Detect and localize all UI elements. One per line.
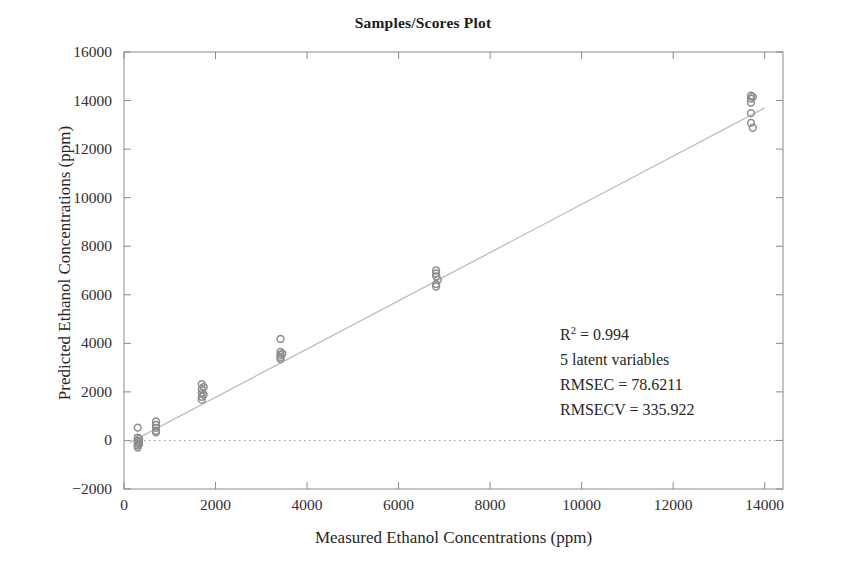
x-axis-title: Measured Ethanol Concentrations (ppm) [124, 528, 783, 548]
x-tick-label: 4000 [292, 496, 323, 514]
data-point [134, 424, 141, 431]
x-tick-label: 0 [120, 496, 128, 514]
r-squared-prefix: R [560, 326, 571, 343]
x-tick-label: 10000 [562, 496, 601, 514]
rmsec-line: RMSEC = 78.6211 [560, 372, 695, 397]
statistics-annotation: R2 = 0.994 5 latent variables RMSEC = 78… [560, 322, 695, 422]
x-tick-label: 8000 [475, 496, 506, 514]
data-point [277, 336, 284, 343]
scatter-plot-figure: Samples/Scores Plot −2000020004000600080… [0, 0, 846, 579]
y-axis-title: Predicted Ethanol Concentrations (ppm) [55, 43, 75, 483]
tick-marks [124, 52, 783, 489]
x-tick-label: 14000 [745, 496, 784, 514]
r-squared-line: R2 = 0.994 [560, 322, 695, 347]
plot-frame [124, 52, 783, 489]
r-squared-value: = 0.994 [576, 326, 629, 343]
plot-canvas [0, 0, 846, 579]
rmsecv-line: RMSECV = 335.922 [560, 397, 695, 422]
x-tick-label: 2000 [200, 496, 231, 514]
x-tick-label: 12000 [654, 496, 693, 514]
x-tick-label: 6000 [383, 496, 414, 514]
latent-variables-line: 5 latent variables [560, 347, 695, 372]
